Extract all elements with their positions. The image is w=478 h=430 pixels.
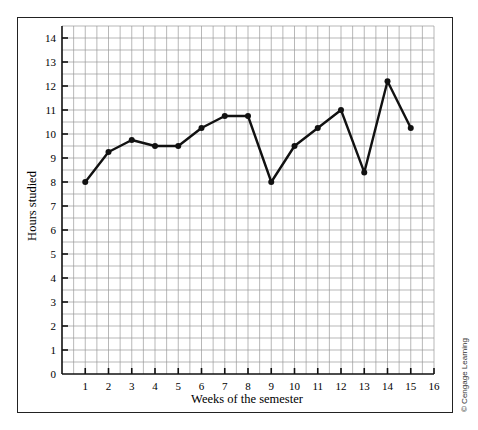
data-point [315,125,321,131]
y-tick-label: 3 [51,296,57,308]
y-tick-label: 7 [51,200,57,212]
x-tick-label: 11 [312,380,323,392]
x-tick-label: 1 [83,380,89,392]
y-axis-ticks: 01234567891011121314 [45,32,68,380]
data-point [152,143,158,149]
data-point [245,113,251,119]
x-tick-label: 2 [106,380,112,392]
y-tick-label: 0 [51,368,57,380]
x-tick-label: 7 [222,380,228,392]
y-tick-label: 11 [45,104,56,116]
y-tick-label: 5 [51,248,57,260]
x-tick-label: 6 [199,380,205,392]
copyright-credit: © Cengage Learning [460,338,469,412]
x-tick-label: 15 [405,380,417,392]
x-tick-label: 10 [289,380,301,392]
data-point [408,125,414,131]
data-point [222,113,228,119]
y-tick-label: 8 [51,176,57,188]
x-tick-label: 5 [176,380,182,392]
line-chart: 01234567891011121314 1234567891011121314… [0,0,478,430]
data-point [385,78,391,84]
y-tick-label: 12 [45,80,56,92]
y-tick-label: 14 [45,32,57,44]
x-tick-label: 9 [269,380,275,392]
x-tick-label: 3 [129,380,135,392]
data-point [338,107,344,113]
y-tick-label: 10 [45,128,57,140]
x-tick-label: 14 [382,380,394,392]
x-tick-label: 12 [336,380,347,392]
y-tick-label: 13 [45,56,57,68]
x-tick-label: 16 [429,380,441,392]
x-tick-label: 4 [152,380,158,392]
data-point [292,143,298,149]
data-point [199,125,205,131]
y-tick-label: 9 [51,152,57,164]
x-tick-label: 13 [359,380,371,392]
y-tick-label: 1 [51,344,57,356]
x-axis-ticks: 12345678910111213141516 [83,368,441,392]
data-point [175,143,181,149]
data-point [129,137,135,143]
grid-lines [62,26,434,374]
x-axis-label: Weeks of the semester [191,392,304,406]
data-point [361,169,367,175]
x-tick-label: 8 [245,380,251,392]
data-point [82,179,88,185]
data-point [106,149,112,155]
data-point [268,179,274,185]
y-axis-label: Hours studied [25,170,39,241]
y-tick-label: 2 [51,320,57,332]
y-tick-label: 4 [51,272,57,284]
y-tick-label: 6 [51,224,57,236]
